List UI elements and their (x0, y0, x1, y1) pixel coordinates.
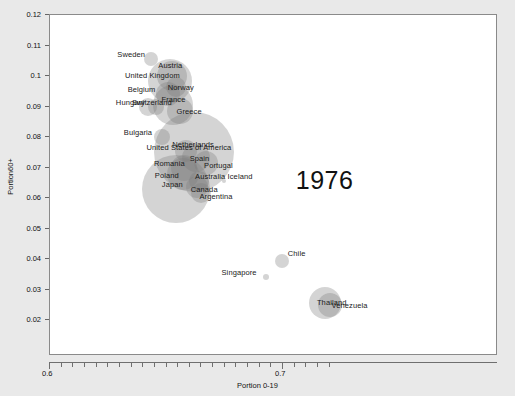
point-label: Bulgaria (124, 129, 152, 137)
point-label: Portugal (204, 162, 233, 170)
point-label: Australia (195, 173, 225, 181)
x-axis-title: Portion 0-19 (0, 381, 515, 390)
x-tick-minor (200, 363, 201, 367)
x-tick-minor (72, 363, 73, 367)
x-axis-line (49, 362, 497, 363)
x-tick-minor (131, 363, 132, 367)
x-tick-minor (235, 363, 236, 367)
point-label: Norway (168, 84, 194, 92)
y-tick-label: 0.06 (3, 193, 41, 202)
point-label: United States of America (146, 144, 231, 152)
point-label: Chile (288, 250, 306, 258)
y-tick-label: 0.12 (3, 10, 41, 19)
x-tick-minor (247, 363, 248, 367)
y-tick-label: 0.05 (3, 224, 41, 233)
point-label: Iceland (228, 173, 253, 181)
bubble-point (275, 254, 289, 268)
x-tick-minor (142, 363, 143, 367)
x-tick-minor (329, 363, 330, 367)
point-label: Sweden (117, 51, 145, 59)
y-tick-label: 0.07 (3, 163, 41, 172)
x-tick-minor (61, 363, 62, 367)
x-tick-minor (166, 363, 167, 367)
plot-area: 1976 SwedenAustriaUnited KingdomNorwayBe… (49, 14, 497, 355)
year-annotation: 1976 (296, 166, 354, 195)
bubble-point (263, 274, 269, 280)
point-label: Belgium (128, 86, 156, 94)
y-tick-label: 0.04 (3, 254, 41, 263)
x-tick-minor (177, 363, 178, 367)
point-label: Romania (154, 160, 185, 168)
point-label: Singapore (222, 269, 257, 277)
x-tick-minor (154, 363, 155, 367)
x-tick-minor (305, 363, 306, 367)
point-label: Japan (162, 181, 183, 189)
point-label: Poland (155, 172, 179, 180)
point-label: Argentina (199, 193, 232, 201)
bubble-chart: Portion60+ 0.020.030.040.050.060.070.080… (0, 0, 515, 396)
x-tick-label: 0.6 (42, 369, 52, 378)
y-tick-label: 0.09 (3, 102, 41, 111)
y-tick-label: 0.03 (3, 285, 41, 294)
y-tick-label: 0.1 (3, 71, 41, 80)
x-tick-minor (224, 363, 225, 367)
x-tick-minor (96, 363, 97, 367)
point-label: Venezuela (332, 302, 368, 310)
x-tick-label: 0.7 (275, 369, 285, 378)
y-tick-label: 0.11 (3, 41, 41, 50)
x-tick-minor (189, 363, 190, 367)
x-tick-minor (119, 363, 120, 367)
x-tick-minor (84, 363, 85, 367)
x-tick-minor (294, 363, 295, 367)
x-tick-minor (270, 363, 271, 367)
point-label: Greece (176, 108, 201, 116)
x-tick-minor (107, 363, 108, 367)
y-tick-label: 0.08 (3, 132, 41, 141)
x-tick-minor (317, 363, 318, 367)
x-tick-minor (212, 363, 213, 367)
x-tick-minor (259, 363, 260, 367)
point-label: United Kingdom (125, 72, 180, 80)
y-tick-label: 0.02 (3, 315, 41, 324)
point-label: Austria (158, 62, 182, 70)
point-label: France (161, 96, 185, 104)
